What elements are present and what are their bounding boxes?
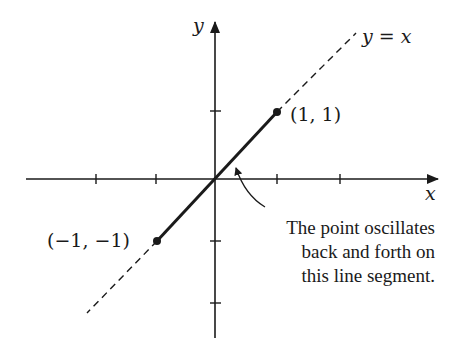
annotation-line-1: The point oscillates bbox=[236, 216, 435, 240]
annotation-line-3: this line segment. bbox=[236, 264, 435, 288]
point-1-1 bbox=[273, 108, 281, 116]
diagram-canvas bbox=[0, 0, 461, 354]
annotation-line-2: back and forth on bbox=[236, 240, 435, 264]
y-axis-label: y bbox=[193, 16, 204, 35]
annotation-arrow bbox=[236, 168, 265, 207]
point-label-1-1: (1, 1) bbox=[290, 105, 341, 124]
annotation-text: The point oscillates back and forth on t… bbox=[236, 216, 435, 288]
x-axis-label: x bbox=[425, 184, 436, 203]
point-label-neg1-neg1: (−1, −1) bbox=[47, 231, 130, 250]
point-neg1-neg1 bbox=[153, 237, 161, 245]
dashed-line-y-equals-x-lower bbox=[87, 241, 157, 313]
dashed-line-y-equals-x-upper bbox=[277, 33, 356, 112]
line-equation-label: y = x bbox=[362, 27, 411, 46]
